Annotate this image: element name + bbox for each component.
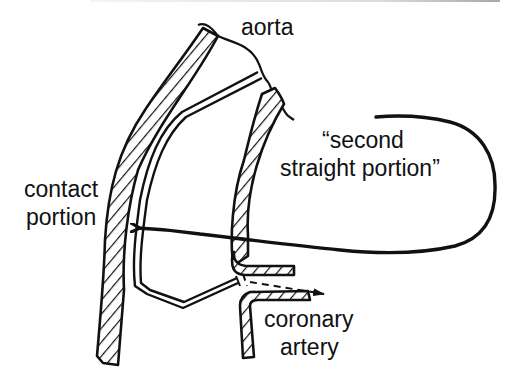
label-contact-portion-line1: contact: [24, 176, 98, 203]
label-coronary-artery-line2: artery: [280, 334, 339, 361]
contact-pointer-arrow: [138, 116, 495, 253]
label-contact-portion-line2: portion: [26, 204, 96, 231]
label-second-straight-portion-line1: “second: [322, 127, 404, 154]
left-aortic-wall: [97, 28, 218, 365]
label-second-straight-portion-line2: straight portion”: [280, 155, 440, 182]
right-aortic-wall: [232, 88, 284, 262]
label-coronary-artery-line1: coronary: [264, 306, 353, 333]
label-aorta: aorta: [241, 14, 293, 41]
